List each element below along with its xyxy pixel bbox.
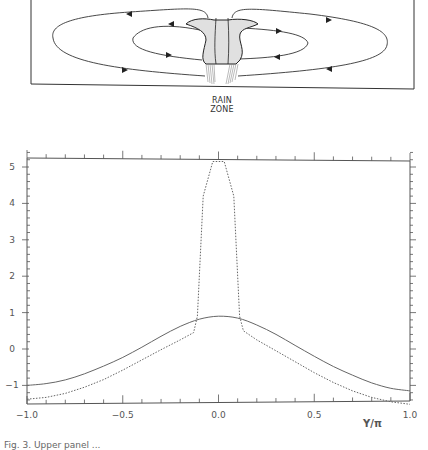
svg-text:3: 3 [9, 235, 15, 245]
inner-loop-right [238, 28, 308, 59]
rain-zone-label-line1: RAIN [200, 96, 244, 105]
outer-loop-right [232, 9, 387, 76]
circulation-schematic [0, 0, 428, 100]
svg-text:0: 0 [9, 344, 15, 354]
line-chart: −1.0−0.50.00.51.0−1012345 Y/π [0, 130, 428, 449]
rain-streaks [206, 64, 238, 84]
svg-text:−0.5: −0.5 [112, 410, 134, 420]
svg-text:−1: −1 [5, 380, 18, 390]
svg-text:0.0: 0.0 [211, 410, 226, 420]
series-dashed-line [27, 162, 410, 405]
outer-loop-left [53, 9, 208, 76]
svg-text:−1.0: −1.0 [16, 410, 38, 420]
svg-text:1: 1 [9, 308, 15, 318]
axis-ticks [22, 150, 416, 404]
svg-text:2: 2 [9, 271, 15, 281]
svg-text:1.0: 1.0 [403, 410, 418, 420]
svg-text:4: 4 [9, 198, 15, 208]
rain-zone-label-line2: ZONE [200, 105, 244, 114]
x-axis-label: Y/π [362, 418, 382, 429]
series-solid-line [27, 316, 410, 391]
chart-axes [27, 158, 410, 404]
tick-labels: −1.0−0.50.00.51.0−1012345 [5, 162, 417, 420]
svg-text:0.5: 0.5 [307, 410, 321, 420]
svg-text:5: 5 [9, 162, 15, 172]
convective-tower [186, 19, 258, 64]
figure-caption: Fig. 3. Upper panel ... [4, 440, 100, 450]
